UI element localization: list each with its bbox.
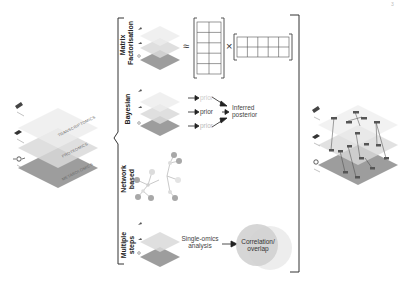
single-omics-analysis-label: Single-omics analysis [178, 235, 222, 249]
method-name-line2: based [128, 164, 136, 194]
approx-symbol: ≈ [183, 41, 189, 52]
method-label-multiple-steps: Multiple steps [120, 230, 138, 260]
method-label-matrix-factorisation: Matrix Factorisation [119, 25, 137, 65]
prior-label-1: prior [200, 94, 213, 101]
method-name-line2: Factorisation [127, 25, 135, 65]
bayesian-stack [138, 89, 180, 136]
inferred-posterior-label: Inferred posterior [232, 104, 257, 118]
page-marker: 3 [391, 1, 394, 7]
method-name-line1: Network [120, 164, 128, 194]
posterior-line2: posterior [232, 111, 257, 118]
correlation-overlap-label: Correlation/ overlap [238, 238, 278, 252]
single-omics-line2: analysis [178, 242, 222, 249]
multiple-steps-stack [138, 222, 180, 267]
network-graph [134, 152, 182, 201]
method-name-line1: Bayesian [124, 92, 132, 126]
correlation-line1: Correlation/ [238, 238, 278, 245]
prior-label-2: prior [200, 108, 213, 115]
integrated-network-stack [312, 105, 398, 185]
matrix-h [234, 34, 292, 60]
matrix-factorisation-stack [138, 26, 180, 70]
times-symbol: × [226, 41, 232, 52]
single-omics-arrow [222, 241, 237, 247]
protein-icon [14, 130, 24, 143]
rna-icon [15, 102, 24, 116]
correlation-line2: overlap [238, 245, 278, 252]
prior-label-3: prior [200, 122, 213, 129]
right-bracket [290, 15, 299, 272]
posterior-line1: Inferred [232, 104, 257, 111]
method-label-bayesian: Bayesian [124, 92, 134, 126]
method-label-network-based: Network based [120, 164, 138, 194]
method-name-line2: steps [128, 230, 136, 260]
method-name-line1: Multiple [120, 230, 128, 260]
single-omics-line1: Single-omics [178, 235, 222, 242]
method-name-line1: Matrix [119, 25, 127, 65]
integrated-icons [312, 106, 320, 172]
matrix-w [194, 18, 224, 78]
